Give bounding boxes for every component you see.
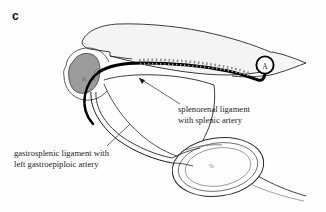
- kidney-tag: K: [82, 76, 86, 82]
- aorta-marker-letter: A: [262, 62, 268, 71]
- label-splenorenal-ligament: splenorenal ligament with splenic artery: [178, 104, 250, 126]
- stomach-tag: St: [209, 163, 214, 169]
- stomach-right-tail-upper: [258, 176, 306, 196]
- kidney-shape: [69, 53, 100, 93]
- leader-line-splenorenal: [139, 78, 180, 104]
- kidney-capsule-left: [64, 66, 66, 76]
- ligament-loop-upper-inner: [104, 75, 214, 85]
- leader-arrowhead-splenorenal: [139, 78, 145, 84]
- panel-letter: c: [12, 10, 19, 22]
- anatomy-figure-panel-c: A c splenorenal ligament with splenic ar: [0, 0, 326, 212]
- anatomy-diagram-svg: A: [0, 0, 326, 212]
- label-gastrosplenic-ligament: gastrosplenic ligament with left gastroe…: [14, 148, 109, 170]
- leader-line-gastrosplenic: [107, 124, 130, 146]
